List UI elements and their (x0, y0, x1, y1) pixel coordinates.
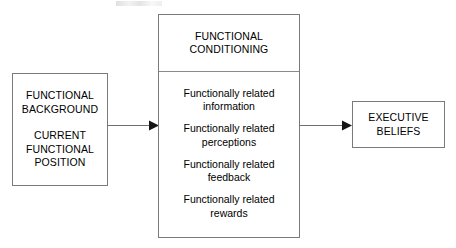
executive-beliefs-line-2: BELIEFS (377, 125, 421, 139)
arrow-conditioning-to-beliefs (299, 120, 352, 131)
current-functional-position-line-1: CURRENT (34, 129, 86, 143)
arrow-background-to-conditioning (107, 120, 159, 131)
functional-conditioning-title-line-2: CONDITIONING (190, 43, 269, 57)
current-functional-position-line-3: POSITION (35, 156, 86, 170)
functional-conditioning-item-list: Functionally relatedinformation Function… (159, 72, 299, 237)
functional-conditioning-title-line-1: FUNCTIONAL (195, 30, 263, 44)
functional-background-line-1: FUNCTIONAL (26, 89, 94, 103)
functional-background-line-2: BACKGROUND (22, 103, 98, 117)
executive-beliefs-line-1: EXECUTIVE (368, 111, 428, 125)
box-functional-conditioning: FUNCTIONAL CONDITIONING Functionally rel… (158, 14, 300, 238)
top-caption-artifact (116, 1, 162, 6)
functional-conditioning-header: FUNCTIONAL CONDITIONING (159, 15, 299, 72)
current-functional-position-line-2: FUNCTIONAL (26, 143, 94, 157)
conditioning-item-feedback: Functionally relatedfeedback (183, 158, 274, 185)
box-executive-beliefs: EXECUTIVE BELIEFS (352, 101, 445, 148)
conditioning-item-information: Functionally relatedinformation (183, 87, 274, 114)
diagram-canvas: FUNCTIONAL BACKGROUND CURRENT FUNCTIONAL… (0, 0, 456, 248)
conditioning-item-rewards: Functionally relatedrewards (183, 193, 274, 220)
conditioning-item-perceptions: Functionally relatedperceptions (183, 122, 274, 149)
box-functional-background: FUNCTIONAL BACKGROUND CURRENT FUNCTIONAL… (12, 73, 108, 186)
